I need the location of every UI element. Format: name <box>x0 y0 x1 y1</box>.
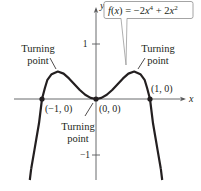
function-callout-pointer <box>121 19 127 66</box>
label-neg1-0: (−1, 0) <box>45 103 72 115</box>
function-plot: 1 −1 x y (−1, 0) (0, 0) (1, 0) Turning p… <box>0 0 201 191</box>
turning-point-mid-line1: Turning <box>61 121 95 132</box>
turning-point-right-leader <box>138 58 145 69</box>
turning-point-left-line2: point <box>27 55 49 66</box>
point-1-0 <box>147 96 152 101</box>
label-origin: (0, 0) <box>99 103 121 115</box>
turning-point-right-line1: Turning <box>141 43 175 54</box>
turning-point-left-line1: Turning <box>21 43 55 54</box>
function-label: f(x) = −2x4 + 2x2 <box>108 4 178 17</box>
figure: 1 −1 x y (−1, 0) (0, 0) (1, 0) Turning p… <box>0 0 201 191</box>
point-neg1-0 <box>39 96 44 101</box>
turning-point-mid-line2: point <box>67 133 89 144</box>
turning-point-left-leader <box>50 58 56 69</box>
x-axis-label: x <box>188 93 194 104</box>
turning-point-mid-leader <box>85 103 93 116</box>
turning-point-right-line2: point <box>147 55 169 66</box>
point-origin <box>93 96 98 101</box>
y-tick-label-neg1: −1 <box>80 150 90 160</box>
label-1-0: (1, 0) <box>151 83 173 95</box>
y-tick-label-1: 1 <box>83 39 88 49</box>
